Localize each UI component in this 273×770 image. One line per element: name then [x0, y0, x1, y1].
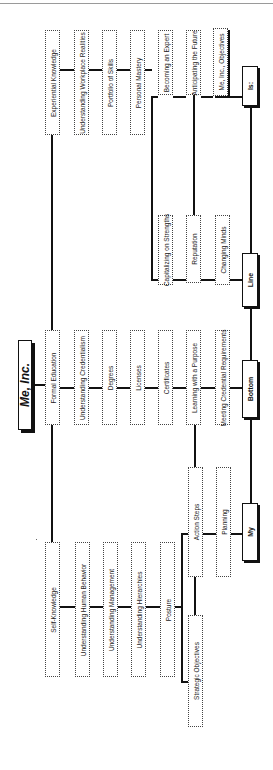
- conn: [60, 387, 74, 389]
- box-understanding-credentialism: Understanding Credentialism: [74, 330, 89, 425]
- box-becoming-an-expert: Becoming an Expert: [158, 30, 173, 95]
- box-experiential-knowledge: Experiential Knowledge: [45, 30, 60, 135]
- conn: [60, 69, 74, 71]
- conn: [89, 69, 102, 71]
- box-capitalizing-on-strengths: Capitalizing on Strengths: [158, 215, 173, 285]
- spine-box-is: Is:: [242, 66, 258, 106]
- box-anticipating-the-future: Anticipating the Future: [186, 30, 201, 95]
- conn: [90, 606, 103, 608]
- box-changing-minds: Changing Minds: [215, 215, 230, 285]
- conn: [173, 279, 186, 281]
- stray-mark: [36, 539, 37, 540]
- box-posture: Posture: [160, 542, 175, 677]
- conn: [117, 387, 130, 389]
- spine-box-bottom: Bottom: [242, 360, 258, 418]
- box-formal-education: Formal Education: [45, 330, 60, 425]
- page-header-rule: [0, 3, 273, 4]
- conn: [89, 387, 102, 389]
- conn: [201, 279, 215, 281]
- conn: [181, 681, 188, 683]
- conn: [201, 96, 213, 98]
- conn: [173, 387, 186, 389]
- box-understanding-workplace-realities: Understanding Workplace Realities: [74, 30, 89, 135]
- conn: [173, 96, 186, 98]
- conn: [201, 387, 215, 389]
- box-me-inc-objectives: Me, Inc., Objectives: [213, 28, 228, 96]
- box-reputation: Reputation: [186, 215, 201, 283]
- conn: [60, 606, 75, 608]
- box-strategic-objectives: Strategic Objectives: [188, 615, 203, 727]
- title-box-me-inc: Me, Inc.: [18, 340, 32, 430]
- box-personal-mastery: Personal Mastery: [130, 30, 145, 135]
- conn: [194, 577, 196, 615]
- spine-box-my: My: [242, 503, 258, 561]
- box-action-steps: Action Steps: [188, 467, 203, 577]
- bracket-strengths: [151, 96, 153, 281]
- conn: [151, 96, 158, 98]
- box-self-knowledge: Self-Knowledge: [45, 542, 60, 677]
- box-understanding-hierarchies: Understanding Hierarchies: [131, 542, 146, 677]
- bracket-strategic: [181, 533, 183, 683]
- conn: [151, 279, 158, 281]
- conn: [145, 387, 158, 389]
- spine-box-line: Line: [242, 253, 258, 307]
- conn: [181, 533, 188, 535]
- conn: [118, 606, 131, 608]
- box-certificates: Certificates: [158, 330, 173, 425]
- conn: [194, 425, 196, 467]
- conn: [117, 69, 130, 71]
- conn: [193, 95, 195, 215]
- conn: [203, 533, 216, 535]
- top-trunk: [51, 70, 53, 560]
- spine-line: [250, 85, 252, 555]
- box-licenses: Licenses: [130, 330, 145, 425]
- conn: [145, 69, 152, 71]
- diagram-title: Me, Inc.: [18, 363, 32, 407]
- box-meeting-credential-requirements: Meeting Credential Requirements: [215, 330, 230, 425]
- conn: [146, 606, 160, 608]
- box-learning-with-a-purpose: Learning with a Purpose: [186, 330, 201, 425]
- box-understanding-human-behavior: Understanding Human Behavior: [75, 542, 90, 677]
- box-degrees: Degrees: [102, 330, 117, 425]
- box-planning: Planning: [216, 467, 231, 577]
- box-understanding-management: Understanding Management: [103, 542, 118, 677]
- box-portfolio-of-skills: Portfolio of Skills: [102, 30, 117, 135]
